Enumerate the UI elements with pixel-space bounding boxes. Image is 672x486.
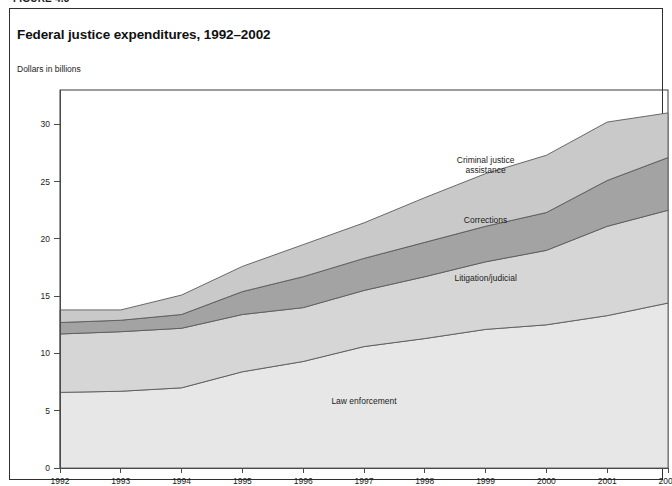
y-tick-label: 0 xyxy=(45,463,50,473)
y-tick-label: 30 xyxy=(41,119,51,129)
x-tick-label: 1994 xyxy=(172,476,191,486)
x-tick-label: 1995 xyxy=(233,476,252,486)
series-label-litigation-judicial: Litigation/judicial xyxy=(454,273,516,283)
figure-root: FIGURE 4.3 Federal justice expenditures,… xyxy=(0,0,672,486)
figure-caption: FIGURE 4.3 xyxy=(13,0,69,3)
y-tick-label: 25 xyxy=(41,177,51,187)
x-tick-label: 1992 xyxy=(51,476,70,486)
x-tick-label: 1999 xyxy=(476,476,495,486)
x-tick-label: 2000 xyxy=(537,476,556,486)
x-tick-label: 1998 xyxy=(415,476,434,486)
y-axis-unit-label: Dollars in billions xyxy=(17,64,81,74)
x-tick-label: 1993 xyxy=(111,476,130,486)
y-tick-label: 15 xyxy=(41,291,51,301)
plot-area: 0510152025301992199319941995199619971998… xyxy=(48,90,668,468)
y-tick-label: 20 xyxy=(41,234,51,244)
series-label-corrections: Corrections xyxy=(464,215,507,225)
chart-panel: Federal justice expenditures, 1992–2002 … xyxy=(9,8,663,480)
x-tick-label: 2001 xyxy=(598,476,617,486)
y-tick-label: 5 xyxy=(45,406,50,416)
y-tick-label: 10 xyxy=(41,348,51,358)
stacked-area-chart: 0510152025301992199319941995199619971998… xyxy=(48,90,668,468)
x-tick-label: 2002 xyxy=(659,476,672,486)
x-tick-label: 1996 xyxy=(294,476,313,486)
chart-title: Federal justice expenditures, 1992–2002 xyxy=(17,27,271,42)
x-tick-label: 1997 xyxy=(355,476,374,486)
series-label-law-enforcement: Law enforcement xyxy=(331,396,397,406)
